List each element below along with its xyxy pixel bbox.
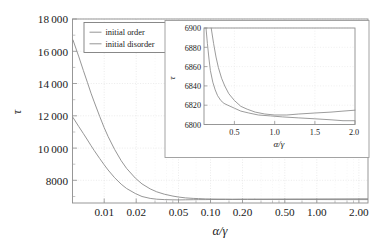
main-series-tails <box>255 199 368 200</box>
main-y-ticklabel: 14 000 <box>38 78 69 90</box>
legend-label-initial-disorder: initial disorder <box>106 40 155 49</box>
main-x-ticklabel: 0.10 <box>201 206 221 218</box>
inset-x-ticklabel: 1.5 <box>310 128 320 137</box>
chart-canvas: 18 000 16 000 14 000 12 000 10 000 8000 … <box>0 0 382 251</box>
inset-y-ticklabel: 6860 <box>185 63 201 72</box>
main-y-ticklabel: 16 000 <box>38 46 69 58</box>
inset-y-ticklabel: 6840 <box>185 82 201 91</box>
main-y-ticklabel: 18 000 <box>38 13 69 25</box>
main-x-ticklabel: 0.50 <box>275 206 295 218</box>
figure-root: 18 000 16 000 14 000 12 000 10 000 8000 … <box>0 0 382 251</box>
inset-x-ticklabel: 2.0 <box>349 128 359 137</box>
main-xaxis-label: α/γ <box>213 224 229 238</box>
main-y-ticklabel: 10 000 <box>38 143 69 155</box>
main-x-ticklabels: 0.01 0.02 0.05 0.10 0.20 0.50 1.00 2.00 <box>94 206 369 218</box>
main-y-ticklabel: 12 000 <box>38 110 69 122</box>
inset-y-ticklabel: 6820 <box>185 101 201 110</box>
inset-y-ticklabel: 6800 <box>185 121 201 130</box>
inset-y-ticklabel: 6900 <box>185 24 201 33</box>
legend[interactable]: initial order initial disorder <box>84 23 168 53</box>
inset-axes: 6900 6880 6860 6840 6820 6800 0.5 1.0 1.… <box>165 21 369 158</box>
inset-x-ticklabel: 0.5 <box>229 128 239 137</box>
main-x-ticklabel: 1.00 <box>307 206 327 218</box>
inset-xaxis-label: α/γ <box>274 139 285 149</box>
main-x-ticklabel: 0.20 <box>233 206 253 218</box>
main-y-ticklabel: 8000 <box>46 175 69 187</box>
main-x-ticklabel: 0.01 <box>94 206 114 218</box>
main-y-ticklabels: 18 000 16 000 14 000 12 000 10 000 8000 <box>38 13 69 186</box>
main-x-ticklabel: 0.02 <box>126 206 146 218</box>
main-x-ticklabel: 0.05 <box>169 206 189 218</box>
main-x-ticklabel: 2.00 <box>349 206 369 218</box>
inset-y-ticklabel: 6880 <box>185 44 201 53</box>
legend-label-initial-order: initial order <box>106 28 146 37</box>
inset-x-ticklabel: 1.0 <box>270 128 280 137</box>
main-yaxis-label: τ <box>10 109 24 114</box>
